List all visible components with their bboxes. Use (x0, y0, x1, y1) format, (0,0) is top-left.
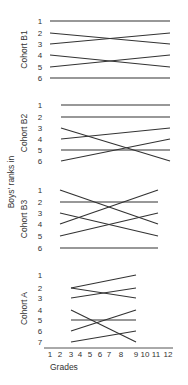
rank-label: 5 (38, 232, 43, 241)
rank-label: 6 (38, 244, 43, 253)
x-tick-label: 4 (78, 350, 83, 359)
cohort-label: Cohort B3 (19, 200, 29, 239)
x-tick-label: 3 (69, 350, 74, 359)
rank-label: 5 (38, 63, 43, 72)
rank-label: 3 (38, 40, 43, 49)
cohort-label: Cohort B1 (19, 30, 29, 69)
rank-label: 1 (38, 271, 43, 280)
x-tick-label: 2 (58, 350, 63, 359)
rank-label: 4 (38, 51, 43, 60)
rank-label: 2 (38, 113, 43, 122)
rank-label: 2 (38, 29, 43, 38)
rank-label: 1 (38, 101, 43, 110)
rank-label: 6 (38, 327, 43, 336)
rank-change-chart: 123456Cohort B1123456Cohort B2123456Coho… (0, 0, 188, 385)
rank-label: 1 (38, 186, 43, 195)
x-tick-label: 1 (48, 350, 53, 359)
x-tick-label: 9 (134, 350, 139, 359)
cohort-label: Cohort B2 (19, 114, 29, 153)
y-axis-label: Boys' ranks in (6, 155, 16, 208)
rank-line (71, 275, 136, 288)
rank-label: 3 (38, 294, 43, 303)
rank-line (71, 310, 136, 342)
x-tick-label: 5 (88, 350, 93, 359)
rank-label: 3 (38, 124, 43, 133)
x-tick-label: 7 (107, 350, 112, 359)
rank-label: 1 (38, 17, 43, 26)
rank-label: 7 (38, 338, 43, 347)
rank-label: 5 (38, 146, 43, 155)
x-tick-label: 10 (141, 350, 150, 359)
x-tick-label: 8 (119, 350, 124, 359)
x-axis-label: Grades (50, 362, 78, 372)
rank-label: 4 (38, 220, 43, 229)
rank-label: 6 (38, 157, 43, 166)
x-tick-label: 6 (98, 350, 103, 359)
rank-label: 2 (38, 284, 43, 293)
rank-label: 4 (38, 135, 43, 144)
rank-label: 2 (38, 198, 43, 207)
rank-label: 6 (38, 74, 43, 83)
rank-label: 3 (38, 209, 43, 218)
x-tick-label: 12 (164, 350, 173, 359)
x-tick-label: 11 (152, 350, 161, 359)
rank-label: 5 (38, 316, 43, 325)
cohort-label: Cohort A (19, 292, 29, 325)
rank-label: 4 (38, 306, 43, 315)
rank-line (71, 331, 136, 342)
